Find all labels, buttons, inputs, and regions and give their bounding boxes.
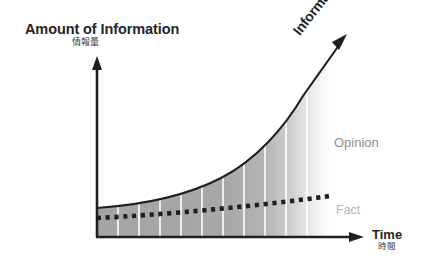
diagram-canvas xyxy=(0,0,422,263)
fact-label: Fact xyxy=(336,204,360,217)
chart-title-japanese: 情報量 xyxy=(72,38,99,47)
opinion-label: Opinion xyxy=(334,136,379,150)
chart-title: Amount of Information xyxy=(25,22,179,37)
x-axis-label: Time xyxy=(372,228,402,242)
information-arrowhead xyxy=(332,34,347,50)
y-axis-arrowhead xyxy=(92,56,102,70)
information-vs-fact-diagram: Amount of Information 情報量 Information Op… xyxy=(0,0,422,263)
x-axis-label-japanese: 時間 xyxy=(378,242,396,251)
x-axis-arrowhead xyxy=(349,232,364,242)
